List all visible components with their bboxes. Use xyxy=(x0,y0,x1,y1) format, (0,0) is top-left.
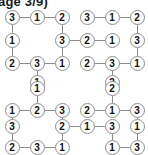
puzzle-edge xyxy=(112,134,113,140)
puzzle-node[interactable]: 3 xyxy=(105,56,120,71)
puzzle-edge xyxy=(20,110,30,111)
puzzle-edge xyxy=(37,96,38,103)
puzzle-edge xyxy=(20,63,30,64)
puzzle-node[interactable]: 3 xyxy=(105,119,120,134)
puzzle-node[interactable]: 3 xyxy=(80,10,95,25)
puzzle-node[interactable]: 1 xyxy=(105,10,120,25)
puzzle-edge xyxy=(120,147,130,148)
puzzle-node[interactable]: 3 xyxy=(30,140,45,155)
puzzle-edge xyxy=(45,17,55,18)
puzzle-edge xyxy=(137,25,138,33)
puzzle-edge xyxy=(137,134,138,140)
puzzle-board: 31213231123121323121123322311221331132 xyxy=(0,0,148,155)
puzzle-node[interactable]: 3 xyxy=(5,10,20,25)
puzzle-node[interactable]: 3 xyxy=(30,56,45,71)
puzzle-edge xyxy=(20,17,30,18)
puzzle-node[interactable]: 2 xyxy=(5,140,20,155)
puzzle-edge xyxy=(62,48,63,56)
puzzle-edge xyxy=(112,96,113,103)
puzzle-node[interactable]: 1 xyxy=(130,119,145,134)
puzzle-node[interactable]: 1 xyxy=(30,81,45,96)
puzzle-edge xyxy=(95,126,105,127)
puzzle-node[interactable]: 3 xyxy=(55,33,70,48)
puzzle-edge xyxy=(120,110,130,111)
puzzle-node[interactable]: 3 xyxy=(55,103,70,118)
puzzle-node[interactable]: 2 xyxy=(80,103,95,118)
puzzle-edge xyxy=(62,25,63,33)
puzzle-edge xyxy=(12,48,13,56)
puzzle-node[interactable]: 1 xyxy=(130,56,145,71)
puzzle-node[interactable]: 2 xyxy=(30,103,45,118)
puzzle-node[interactable]: 1 xyxy=(5,33,20,48)
puzzle-edge xyxy=(20,147,30,148)
puzzle-edge xyxy=(95,63,105,64)
puzzle-node[interactable]: 2 xyxy=(105,81,120,96)
puzzle-edge xyxy=(95,110,105,111)
puzzle-node[interactable]: 1 xyxy=(5,103,20,118)
puzzle-node[interactable]: 1 xyxy=(55,140,70,155)
puzzle-edge xyxy=(112,71,113,75)
puzzle-edge xyxy=(12,134,13,140)
puzzle-edge xyxy=(137,48,138,56)
puzzle-node[interactable]: 1 xyxy=(105,103,120,118)
puzzle-node[interactable]: 2 xyxy=(80,33,95,48)
puzzle-node[interactable]: 2 xyxy=(5,56,20,71)
puzzle-node[interactable]: 1 xyxy=(30,10,45,25)
puzzle-node[interactable]: 3 xyxy=(130,103,145,118)
puzzle-node[interactable]: 1 xyxy=(80,119,95,134)
puzzle-node[interactable]: 1 xyxy=(105,140,120,155)
puzzle-edge xyxy=(62,134,63,140)
puzzle-node[interactable]: 2 xyxy=(80,56,95,71)
puzzle-edge xyxy=(37,71,38,75)
puzzle-edge xyxy=(70,40,80,41)
puzzle-edge xyxy=(45,110,55,111)
puzzle-edge xyxy=(70,126,80,127)
puzzle-node[interactable]: 1 xyxy=(105,33,120,48)
puzzle-node[interactable]: 3 xyxy=(130,33,145,48)
puzzle-edge xyxy=(95,17,105,18)
puzzle-node[interactable]: 2 xyxy=(55,119,70,134)
puzzle-edge xyxy=(45,63,55,64)
puzzle-node[interactable]: 2 xyxy=(55,10,70,25)
puzzle-node[interactable]: 3 xyxy=(130,140,145,155)
puzzle-edge xyxy=(12,25,13,33)
puzzle-edge xyxy=(95,40,105,41)
puzzle-edge xyxy=(120,17,130,18)
puzzle-node[interactable]: 1 xyxy=(55,56,70,71)
puzzle-edge xyxy=(45,147,55,148)
puzzle-node[interactable]: 2 xyxy=(130,10,145,25)
puzzle-edge xyxy=(120,63,130,64)
puzzle-node[interactable]: 3 xyxy=(5,119,20,134)
